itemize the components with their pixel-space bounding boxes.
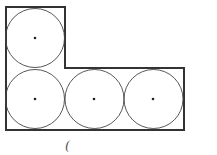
circle-bottom-3	[124, 70, 183, 129]
circle-bottom-2	[65, 70, 124, 129]
center-dot	[34, 37, 37, 40]
circle-top-left	[6, 9, 65, 68]
l-shape-outline	[6, 7, 184, 130]
center-dot	[93, 98, 96, 101]
l-shape-circles-diagram	[0, 0, 217, 155]
center-dot	[34, 98, 37, 101]
center-dot	[152, 98, 155, 101]
circle-bottom-1	[6, 70, 65, 129]
